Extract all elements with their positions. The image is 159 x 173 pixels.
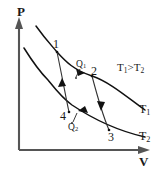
- y-axis-label: P: [17, 5, 25, 18]
- isotherm-label-cold: T2: [139, 130, 150, 144]
- heat-q2-subscript: 2: [75, 125, 78, 132]
- isotherm-label-hot: T1: [139, 103, 150, 117]
- state-label-1: 1: [53, 38, 59, 50]
- isotherm-cold-subscript: 2: [146, 135, 150, 144]
- q2-leader-line: [73, 113, 77, 122]
- heat-q1-subscript: 1: [83, 62, 86, 69]
- heat-label-q2: Q2: [68, 123, 78, 133]
- isotherm-hot-subscript: 1: [146, 108, 150, 117]
- relation-lhs-symbol: T: [117, 61, 124, 73]
- q1-leader-dot: [75, 77, 77, 79]
- carnot-cycle-figure: P V 1 2 3 4 Q1 Q2 T1 T2 T1>T2: [0, 0, 159, 173]
- x-axis-label: V: [139, 155, 148, 168]
- state-point-1-marker: [56, 51, 59, 54]
- arrow-adiabatic-compression: [58, 78, 66, 87]
- state-point-4-marker: [68, 111, 71, 114]
- state-label-3: 3: [108, 131, 114, 143]
- temperature-relation-annotation: T1>T2: [117, 62, 144, 74]
- state-label-4: 4: [60, 110, 66, 122]
- relation-rhs-subscript: 2: [140, 66, 144, 75]
- x-axis-arrowhead: [138, 146, 150, 154]
- heat-label-q1: Q1: [76, 60, 86, 70]
- heat-q1-symbol: Q: [76, 59, 83, 69]
- arrow-adiabatic-expansion: [97, 101, 105, 111]
- carnot-diagram-canvas: [0, 0, 159, 173]
- heat-q2-symbol: Q: [68, 122, 75, 132]
- state-label-2: 2: [91, 65, 97, 77]
